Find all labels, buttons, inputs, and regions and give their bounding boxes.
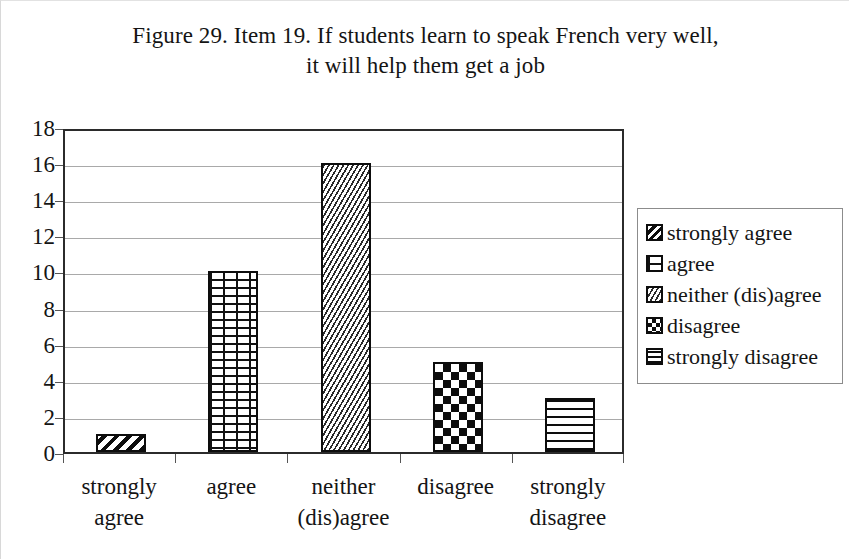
x-axis-tick-label-line: strongly [63, 471, 175, 502]
y-axis-tickmark [55, 273, 63, 274]
legend-item: disagree [646, 310, 836, 341]
x-axis-tickmark [400, 454, 401, 463]
chart-title-line-1: Figure 29. Item 19. If students learn to… [1, 21, 849, 51]
figure-container: Figure 29. Item 19. If students learn to… [0, 0, 849, 559]
x-axis-tickmarks [63, 454, 624, 463]
y-axis-tick-label: 4 [1, 370, 55, 393]
x-axis-tick-label-line: disagree [400, 471, 512, 502]
bar [433, 362, 483, 452]
y-axis-tick-label: 10 [1, 261, 55, 284]
chart-title: Figure 29. Item 19. If students learn to… [1, 21, 849, 81]
x-axis-tickmark [623, 454, 624, 463]
x-axis-tick-label-line: (dis)agree [287, 502, 399, 533]
legend-item: agree [646, 248, 836, 279]
x-axis-tick-label-line: disagree [512, 502, 624, 533]
y-axis-tick-label: 14 [1, 189, 55, 212]
bar [321, 163, 371, 452]
legend-item-label: strongly disagree [667, 346, 818, 368]
x-axis-tick-label: stronglyagree [63, 471, 175, 533]
plot-area [63, 129, 624, 454]
chart-legend: strongly agreeagreeneither (dis)agreedis… [637, 208, 843, 384]
y-axis-tickmark [55, 129, 63, 130]
x-axis-tick-label: neither(dis)agree [287, 471, 399, 533]
bar [96, 434, 146, 452]
legend-swatch-icon [646, 255, 663, 272]
x-axis-tick-label-line: neither [287, 471, 399, 502]
y-axis-tick-label: 12 [1, 225, 55, 248]
y-axis-tick-label: 0 [1, 442, 55, 465]
legend-item: strongly agree [646, 217, 836, 248]
legend-item-label: strongly agree [667, 222, 792, 244]
legend-item-label: disagree [667, 315, 740, 337]
legend-item: strongly disagree [646, 341, 836, 372]
y-axis-tickmark [55, 346, 63, 347]
x-axis-tick-label: agree [175, 471, 287, 502]
x-axis-labels: stronglyagreeagreeneither(dis)agreedisag… [63, 471, 624, 541]
x-axis-tick-label-line: agree [175, 471, 287, 502]
chart-title-line-2: it will help them get a job [1, 51, 849, 81]
legend-swatch-icon [646, 286, 663, 303]
y-axis-tickmark [55, 382, 63, 383]
y-axis-tickmark [55, 165, 63, 166]
legend-item: neither (dis)agree [646, 279, 836, 310]
x-axis-tickmark [63, 454, 64, 463]
x-axis-tick-label: stronglydisagree [512, 471, 624, 533]
legend-swatch-icon [646, 348, 663, 365]
x-axis-tickmark [512, 454, 513, 463]
y-axis-tick-label: 16 [1, 153, 55, 176]
y-axis-tickmark [55, 201, 63, 202]
legend-item-label: agree [667, 253, 715, 275]
x-axis-tick-label-line: agree [63, 502, 175, 533]
y-axis-labels: 181614121086420 [1, 129, 55, 454]
y-axis-tickmarks [55, 129, 63, 454]
x-axis-tickmark [287, 454, 288, 463]
y-axis-tickmark [55, 237, 63, 238]
x-axis-tick-label: disagree [400, 471, 512, 502]
y-axis-tickmark [55, 454, 63, 455]
legend-item-label: neither (dis)agree [667, 284, 822, 306]
bar-series [65, 131, 622, 452]
x-axis-tickmark [175, 454, 176, 463]
y-axis-tick-label: 2 [1, 406, 55, 429]
y-axis-tick-label: 18 [1, 117, 55, 140]
x-axis-tick-label-line: strongly [512, 471, 624, 502]
y-axis-tickmark [55, 418, 63, 419]
bar [545, 398, 595, 452]
y-axis-tick-label: 6 [1, 334, 55, 357]
legend-swatch-icon [646, 317, 663, 334]
legend-swatch-icon [646, 224, 663, 241]
bar [208, 271, 258, 452]
y-axis-tick-label: 8 [1, 298, 55, 321]
y-axis-tickmark [55, 310, 63, 311]
